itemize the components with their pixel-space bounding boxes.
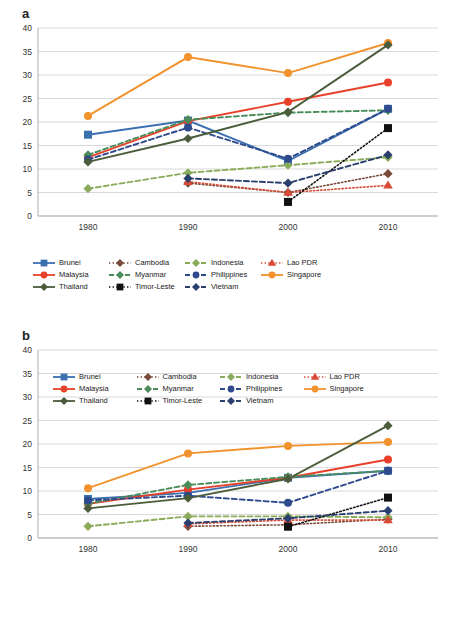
svg-text:35: 35 [23, 369, 33, 379]
legend-label: Singapore [287, 270, 321, 280]
svg-text:15: 15 [23, 463, 33, 473]
legend-item: Indonesia [184, 258, 256, 268]
legend-item: Singapore [260, 270, 332, 280]
legend-item: Philippines [184, 270, 256, 280]
svg-text:20: 20 [23, 117, 33, 127]
svg-text:2010: 2010 [379, 222, 398, 232]
svg-text:5: 5 [27, 188, 32, 198]
svg-text:25: 25 [23, 94, 33, 104]
legend-label: Myanmar [163, 384, 194, 394]
legend-label: Malaysia [59, 270, 89, 280]
legend-item: Myanmar [136, 384, 216, 394]
legend-label: Malaysia [79, 384, 109, 394]
legend-label: Thailand [59, 282, 88, 292]
legend-item: Lao PDR [260, 258, 332, 268]
legend-a: Brunei Cambodia Indonesia Lao PDR Malays… [32, 258, 332, 292]
legend-item: Malaysia [32, 270, 104, 280]
svg-text:40: 40 [23, 345, 33, 355]
svg-text:10: 10 [23, 164, 33, 174]
legend-label: Myanmar [135, 270, 166, 280]
svg-text:40: 40 [23, 23, 33, 33]
legend-item: Vietnam [184, 282, 256, 292]
legend-label: Singapore [330, 384, 364, 394]
legend-label: Philippines [246, 384, 282, 394]
legend-label: Thailand [79, 396, 108, 406]
svg-text:30: 30 [23, 392, 33, 402]
legend-item: Myanmar [108, 270, 180, 280]
legend-item: Thailand [32, 282, 104, 292]
legend-item: Lao PDR [303, 372, 383, 382]
svg-text:10: 10 [23, 486, 33, 496]
legend-label: Cambodia [135, 258, 169, 268]
legend-item: Thailand [52, 396, 132, 406]
legend-item: Timor-Leste [108, 282, 180, 292]
legend-item: Brunei [52, 372, 132, 382]
svg-text:1980: 1980 [79, 544, 98, 554]
legend-item: Singapore [303, 384, 383, 394]
legend-label: Indonesia [211, 258, 244, 268]
legend-label: Timor-Leste [135, 282, 175, 292]
legend-b: Brunei Cambodia Indonesia Lao PDR Malays… [52, 372, 382, 406]
legend-item: Vietnam [219, 396, 299, 406]
svg-text:0: 0 [27, 211, 32, 221]
plot-area-a: 05101520253035401980199020002010 [0, 20, 456, 242]
svg-text:35: 35 [23, 47, 33, 57]
legend-label: Lao PDR [287, 258, 317, 268]
legend-item: Brunei [32, 258, 104, 268]
legend-item: Philippines [219, 384, 299, 394]
svg-text:5: 5 [27, 510, 32, 520]
svg-text:25: 25 [23, 416, 33, 426]
legend-item: Cambodia [108, 258, 180, 268]
legend-item: Indonesia [219, 372, 299, 382]
legend-item: Timor-Leste [136, 396, 216, 406]
svg-text:30: 30 [23, 70, 33, 80]
legend-label: Brunei [59, 258, 81, 268]
legend-label: Vietnam [211, 282, 238, 292]
svg-text:1990: 1990 [179, 222, 198, 232]
panel-label-b: b [22, 328, 30, 343]
legend-label: Philippines [211, 270, 247, 280]
svg-text:2000: 2000 [279, 544, 298, 554]
legend-item: Malaysia [52, 384, 132, 394]
svg-text:1990: 1990 [179, 544, 198, 554]
legend-label: Lao PDR [330, 372, 360, 382]
svg-text:15: 15 [23, 141, 33, 151]
legend-label: Brunei [79, 372, 101, 382]
panel-label-a: a [22, 6, 29, 21]
svg-text:2000: 2000 [279, 222, 298, 232]
legend-label: Timor-Leste [163, 396, 203, 406]
svg-text:2010: 2010 [379, 544, 398, 554]
svg-text:0: 0 [27, 533, 32, 543]
legend-item: Cambodia [136, 372, 216, 382]
legend-label: Cambodia [163, 372, 197, 382]
svg-text:1980: 1980 [79, 222, 98, 232]
legend-label: Indonesia [246, 372, 279, 382]
legend-label: Vietnam [246, 396, 273, 406]
svg-text:20: 20 [23, 439, 33, 449]
